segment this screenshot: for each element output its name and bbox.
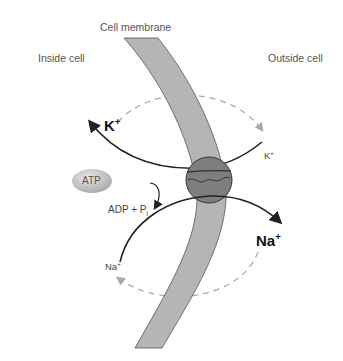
k-symbol: K	[104, 117, 115, 134]
pi-subscript: i	[146, 210, 147, 217]
na-ion-outside-label: Na+	[256, 231, 281, 249]
cell-membrane-label: Cell membrane	[100, 21, 171, 33]
k-ion-inside-label: K+	[104, 116, 121, 134]
atp-label: ATP	[82, 175, 101, 186]
na-symbol: Na	[105, 261, 117, 272]
na-symbol: Na	[256, 232, 275, 249]
na-ion-inside-label: Na+	[105, 260, 121, 272]
na-charge: +	[275, 231, 281, 242]
k-ion-outside-label: K+	[264, 149, 274, 161]
outside-cell-label: Outside cell	[268, 52, 323, 64]
inside-cell-label: Inside cell	[38, 52, 85, 64]
k-charge: +	[270, 149, 274, 156]
na-charge: +	[117, 260, 121, 267]
adp-pi-label: ADP + Pi	[108, 204, 148, 217]
adp-text: ADP + P	[108, 204, 146, 215]
k-charge: +	[115, 116, 121, 127]
atp-hydrolysis-arrow	[150, 183, 159, 208]
